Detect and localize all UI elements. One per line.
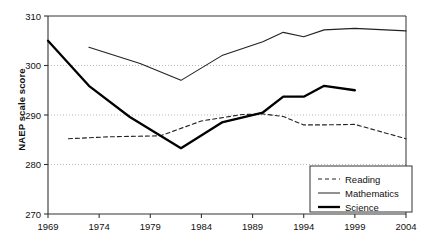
legend-label-reading: Reading <box>345 174 380 185</box>
x-tick-label: 1994 <box>293 221 314 232</box>
gridlines <box>48 66 406 165</box>
x-tick-label: 1984 <box>191 221 212 232</box>
y-tick-label: 280 <box>25 159 41 170</box>
y-tick-label: 310 <box>25 11 41 22</box>
x-tick-label: 1989 <box>242 221 263 232</box>
y-axis-ticks: 270280290300310 <box>25 11 48 220</box>
series-lines <box>48 28 406 148</box>
naep-line-chart: NAEP scale score 270280290300310 1969197… <box>0 0 422 251</box>
legend-label-science: Science <box>345 202 379 213</box>
y-tick-label: 290 <box>25 110 41 121</box>
series-line-science <box>48 41 355 148</box>
x-tick-label: 1979 <box>140 221 161 232</box>
x-tick-label: 1969 <box>37 221 58 232</box>
y-tick-label: 300 <box>25 60 41 71</box>
series-line-mathematics <box>89 28 406 80</box>
x-axis-ticks: 19691974197919841989199419992004 <box>37 214 416 232</box>
legend: ReadingMathematicsScience <box>310 166 412 213</box>
chart-svg: 270280290300310 196919741979198419891994… <box>0 0 422 251</box>
y-tick-label: 270 <box>25 209 41 220</box>
legend-label-mathematics: Mathematics <box>345 188 399 199</box>
x-tick-label: 1974 <box>89 221 110 232</box>
x-tick-label: 2004 <box>395 221 416 232</box>
x-tick-label: 1999 <box>344 221 365 232</box>
